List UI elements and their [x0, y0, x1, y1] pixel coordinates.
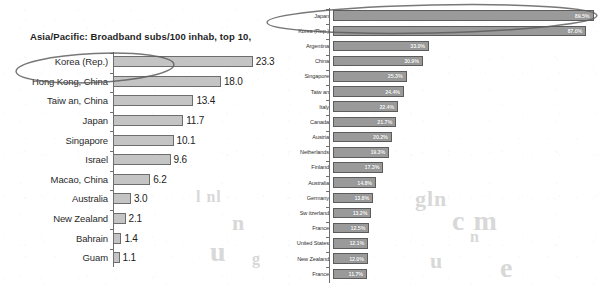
- right-value-label: 25.3%: [388, 73, 406, 79]
- right-axis-tick: [326, 115, 329, 116]
- left-value-label: 9.6: [174, 154, 187, 165]
- right-plot-area: Japan89.5%Korea (Rep.)87.0%Argentina33.0…: [272, 8, 601, 283]
- right-bar-track: 22.4%: [333, 99, 601, 114]
- right-category-label: Australia: [272, 180, 333, 186]
- right-axis-tick: [326, 24, 329, 25]
- right-bar-track: 21.7%: [333, 114, 601, 129]
- left-axis-tick: [110, 249, 114, 250]
- left-bar-track: 10.1: [113, 130, 290, 150]
- right-bar: 19.3%: [333, 147, 389, 158]
- left-axis-tick: [110, 131, 114, 132]
- left-bar-track: 1.1: [113, 248, 290, 268]
- right-bar: 33.0%: [333, 41, 429, 52]
- right-value-label: 33.0%: [410, 43, 428, 49]
- left-bar: [113, 76, 221, 87]
- left-bar-row: Korea (Rep.)23.3: [0, 52, 290, 72]
- right-bar: 21.7%: [333, 117, 396, 128]
- right-bar-track: 13.2%: [333, 205, 601, 220]
- right-category-label: United States: [272, 240, 333, 246]
- left-bar-row: Bahrain1.4: [0, 228, 290, 248]
- left-category-label: Korea (Rep.): [0, 56, 113, 67]
- right-axis-tick: [326, 146, 329, 147]
- left-bar-row: Australia3.0: [0, 189, 290, 209]
- left-axis-tick: [110, 229, 114, 230]
- right-category-label: Japan: [272, 13, 333, 19]
- right-bar: 89.5%: [333, 10, 594, 21]
- right-bar-row: Argentina33.0%: [272, 38, 601, 53]
- left-bar-track: 13.4: [113, 91, 290, 111]
- right-category-label: Finland: [272, 164, 333, 170]
- right-bar-row: Canada21.7%: [272, 114, 601, 129]
- right-value-label: 22.4%: [379, 104, 397, 110]
- left-bar-track: 3.0: [113, 189, 290, 209]
- left-bar: [113, 135, 174, 146]
- left-category-label: Macao, China: [0, 174, 113, 185]
- right-axis-tick: [326, 161, 329, 162]
- left-category-label: Israel: [0, 154, 113, 165]
- right-category-label: New Zealand: [272, 256, 333, 262]
- right-axis-tick: [326, 55, 329, 56]
- right-axis-tick: [326, 9, 329, 10]
- left-value-label: 1.1: [123, 252, 136, 263]
- left-category-label: Bahrain: [0, 233, 113, 244]
- right-bar-track: 17.3%: [333, 160, 601, 175]
- left-category-label: Australia: [0, 193, 113, 204]
- right-bar-track: 30.9%: [333, 54, 601, 69]
- right-category-label: Austria: [272, 134, 333, 140]
- right-bar-track: 20.2%: [333, 130, 601, 145]
- right-bar: 22.4%: [333, 101, 398, 112]
- right-bar-row: Finland17.3%: [272, 160, 601, 175]
- left-axis-tick: [110, 53, 114, 54]
- left-value-label: 3.0: [134, 193, 147, 204]
- right-bar-row: Sw itzerland13.2%: [272, 205, 601, 220]
- right-axis-tick: [326, 237, 329, 238]
- left-bar: [113, 95, 193, 106]
- right-category-label: Sw itzerland: [272, 210, 333, 216]
- right-value-label: 12.0%: [349, 256, 367, 262]
- left-bar-row: Taiw an, China13.4: [0, 91, 290, 111]
- left-bar-track: 11.7: [113, 111, 290, 131]
- right-bar: 14.8%: [333, 177, 376, 188]
- right-bar-track: 11.7%: [333, 266, 601, 281]
- left-value-label: 10.1: [177, 135, 196, 146]
- left-value-label: 2.1: [129, 213, 142, 224]
- left-bar-row: Japan11.7: [0, 111, 290, 131]
- right-bar: 13.8%: [333, 193, 373, 204]
- right-axis-tick: [326, 131, 329, 132]
- right-value-label: 87.0%: [567, 28, 585, 34]
- left-bar-row: New Zealand2.1: [0, 209, 290, 229]
- left-category-label: Hong Kong, China: [0, 76, 113, 87]
- right-axis-tick: [326, 39, 329, 40]
- right-category-label: France: [272, 225, 333, 231]
- left-category-label: Singapore: [0, 135, 113, 146]
- right-value-label: 12.5%: [351, 225, 369, 231]
- right-bar-row: Korea (Rep.)87.0%: [272, 23, 601, 38]
- left-bar-track: 23.3: [113, 52, 290, 72]
- right-axis-tick: [326, 100, 329, 101]
- right-category-label: Korea (Rep.): [272, 28, 333, 34]
- left-chart-title: Asia/Pacific: Broadband subs/100 inhab, …: [30, 31, 251, 42]
- right-bar-track: 12.1%: [333, 236, 601, 251]
- right-bar-row: Japan89.5%: [272, 8, 601, 23]
- right-bar-track: 12.5%: [333, 221, 601, 236]
- right-axis-tick: [326, 222, 329, 223]
- left-axis-tick: [110, 73, 114, 74]
- right-bar-chart: Japan89.5%Korea (Rep.)87.0%Argentina33.0…: [272, 0, 601, 289]
- left-axis-tick: [110, 112, 114, 113]
- right-bar-track: 24.4%: [333, 84, 601, 99]
- left-value-label: 1.4: [124, 233, 137, 244]
- right-category-label: France: [272, 271, 333, 277]
- right-bar-track: 87.0%: [333, 23, 601, 38]
- left-axis-tick: [110, 92, 114, 93]
- right-value-label: 17.3%: [365, 164, 383, 170]
- right-value-label: 30.9%: [404, 58, 422, 64]
- right-category-label: China: [272, 58, 333, 64]
- left-bar-row: Israel9.6: [0, 150, 290, 170]
- right-bar-row: Austria20.2%: [272, 130, 601, 145]
- left-category-axis: [113, 52, 114, 267]
- right-bar: 24.4%: [333, 86, 404, 97]
- right-value-label: 24.4%: [385, 89, 403, 95]
- left-bar: [113, 193, 131, 204]
- right-bar-row: France12.5%: [272, 221, 601, 236]
- right-bar-row: Netherlands19.3%: [272, 145, 601, 160]
